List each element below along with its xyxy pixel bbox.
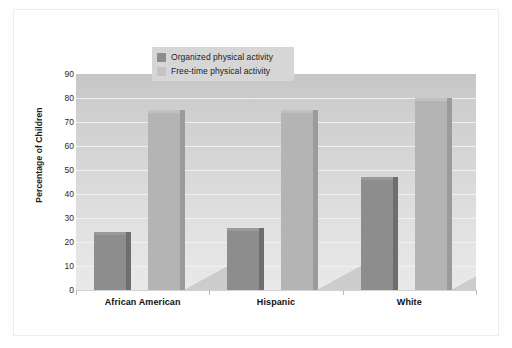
y-tick-label: 0 bbox=[44, 286, 74, 295]
legend-label: Free-time physical activity bbox=[171, 66, 270, 76]
chart-legend: Organized physical activityFree-time phy… bbox=[152, 47, 294, 81]
y-axis-tick-labels: 9080706050403020100 bbox=[44, 74, 74, 290]
bar-face bbox=[148, 110, 180, 290]
x-category-label: Hispanic bbox=[257, 297, 295, 307]
bar-face bbox=[227, 228, 259, 290]
bar-floor-shadow bbox=[317, 266, 361, 290]
bar-face bbox=[361, 177, 393, 290]
x-tick-mark bbox=[209, 290, 210, 295]
x-tick-mark bbox=[76, 290, 77, 295]
y-tick-label: 10 bbox=[44, 262, 74, 271]
bar-free-time bbox=[281, 110, 313, 290]
bar-floor-shadow bbox=[184, 266, 228, 290]
bar-side bbox=[393, 177, 398, 290]
y-tick-label: 20 bbox=[44, 238, 74, 247]
plot-area bbox=[76, 74, 476, 290]
chart-figure: Percentage of Children 90807060504030201… bbox=[0, 0, 512, 348]
legend-item: Free-time physical activity bbox=[157, 64, 288, 78]
bar-floor-shadow bbox=[451, 266, 476, 290]
bar-organized bbox=[361, 177, 393, 290]
bar-top bbox=[148, 110, 180, 113]
x-tick-mark bbox=[476, 290, 477, 295]
bar-face bbox=[94, 232, 126, 290]
y-tick-label: 70 bbox=[44, 118, 74, 127]
legend-label: Organized physical activity bbox=[171, 52, 273, 62]
bar-side bbox=[126, 232, 131, 290]
x-axis-line bbox=[76, 290, 476, 291]
bar-side bbox=[259, 228, 264, 290]
bar-side bbox=[313, 110, 318, 290]
bar-organized bbox=[94, 232, 126, 290]
bar-face bbox=[281, 110, 313, 290]
bar-top bbox=[94, 232, 126, 235]
bar-top bbox=[281, 110, 313, 113]
bar-top bbox=[415, 98, 447, 101]
bar-free-time bbox=[415, 98, 447, 290]
y-tick-label: 30 bbox=[44, 214, 74, 223]
y-tick-label: 40 bbox=[44, 190, 74, 199]
bar-organized bbox=[227, 228, 259, 290]
bar-free-time bbox=[148, 110, 180, 290]
bar-side bbox=[447, 98, 452, 290]
y-tick-label: 80 bbox=[44, 94, 74, 103]
legend-swatch-icon bbox=[157, 53, 166, 62]
legend-item: Organized physical activity bbox=[157, 50, 288, 64]
bar-face bbox=[415, 98, 447, 290]
y-tick-label: 60 bbox=[44, 142, 74, 151]
y-axis-title: Percentage of Children bbox=[34, 95, 44, 215]
y-tick-label: 90 bbox=[44, 70, 74, 79]
y-tick-label: 50 bbox=[44, 166, 74, 175]
bar-top bbox=[227, 228, 259, 231]
bar-side bbox=[180, 110, 185, 290]
x-category-label: African American bbox=[105, 297, 181, 307]
x-category-label: White bbox=[397, 297, 422, 307]
legend-swatch-icon bbox=[157, 67, 166, 76]
x-tick-mark bbox=[343, 290, 344, 295]
bar-top bbox=[361, 177, 393, 180]
